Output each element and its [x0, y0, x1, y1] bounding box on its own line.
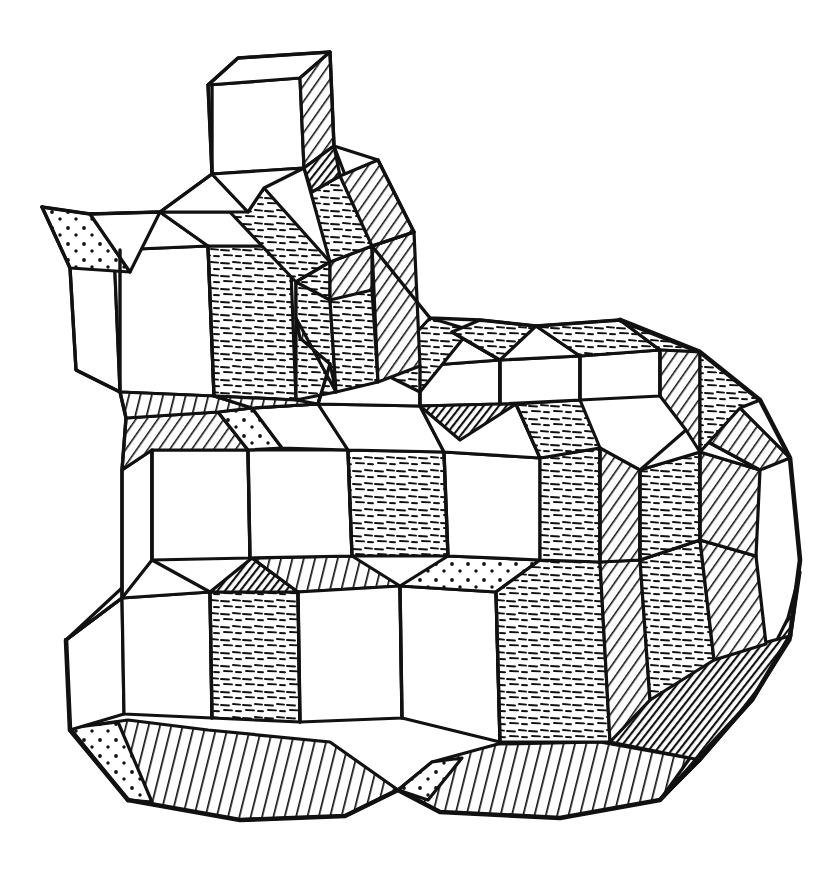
edge-lower-seam-b [298, 592, 300, 722]
block-top-tower-front-face [208, 78, 304, 174]
block-right-flank-front-face [540, 448, 600, 562]
block-core-front-face [248, 450, 352, 558]
block-right-flank-right-face [600, 448, 640, 562]
block-lower-center-front-face [298, 586, 402, 722]
polycube-drawing [0, 0, 817, 876]
block-lower-left-mid-front-face [210, 592, 300, 722]
block-lower-right-front-face [496, 560, 610, 742]
figure-root [0, 0, 817, 876]
block-left-mid-front-face [152, 450, 250, 560]
edge-lower-seam-c [400, 586, 402, 718]
edge-core-seam-b [248, 450, 250, 558]
edge-lower-seam-a [210, 592, 212, 718]
block-lower-center-right-front-face [400, 586, 500, 742]
block-mid-right-front-face [444, 452, 540, 560]
block-core-right-front-face [348, 450, 448, 556]
block-lower-left-front-face [122, 592, 212, 718]
block-right-upper-front-face [500, 356, 580, 404]
block-upper-right-pillar-body [330, 290, 378, 392]
block-far-right-front-face [580, 350, 660, 400]
